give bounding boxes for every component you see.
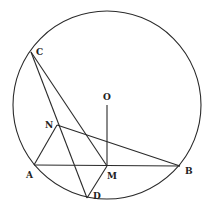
label-O: O <box>103 92 111 102</box>
segment-CM <box>31 52 107 166</box>
label-B: B <box>185 166 193 176</box>
label-M: M <box>107 171 117 181</box>
segment-NB <box>57 125 180 166</box>
label-D: D <box>93 191 101 201</box>
segment-CD <box>31 52 87 198</box>
label-N: N <box>45 120 53 130</box>
geometry-diagram: A B C D M N O <box>0 0 203 218</box>
label-A: A <box>25 170 34 180</box>
label-C: C <box>36 47 43 57</box>
segment-NA <box>34 125 57 165</box>
